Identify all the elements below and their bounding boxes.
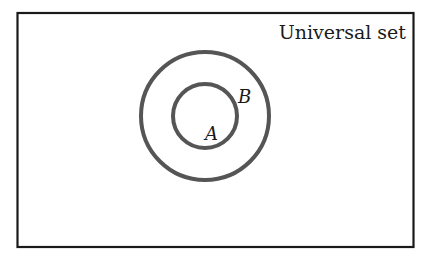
universal-set-label: Universal set bbox=[279, 21, 407, 43]
venn-diagram: Universal set B A bbox=[0, 0, 435, 268]
set-b-label: B bbox=[237, 86, 251, 107]
set-a-label: A bbox=[203, 123, 218, 144]
